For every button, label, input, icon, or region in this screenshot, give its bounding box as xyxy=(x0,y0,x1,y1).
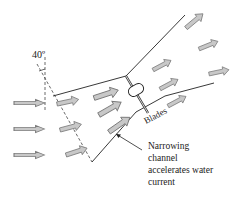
annotation-line-3: accelerates water xyxy=(148,165,214,175)
turbine xyxy=(126,76,148,113)
annotation-pointer xyxy=(116,134,142,150)
annotation-line-2: channel xyxy=(148,153,178,163)
annotation-line-1: Narrowing xyxy=(148,141,189,151)
annotation-arrowhead xyxy=(116,134,121,138)
channel-arrows xyxy=(56,10,230,159)
annotation-text: Narrowing channel accelerates water curr… xyxy=(148,141,214,187)
angle-label: 40º xyxy=(32,49,45,60)
inflow-arrows xyxy=(14,99,45,158)
channel-diagram: 40º Blades Narrowing channel accelerates… xyxy=(0,0,241,199)
annotation-line-4: current xyxy=(148,177,175,187)
